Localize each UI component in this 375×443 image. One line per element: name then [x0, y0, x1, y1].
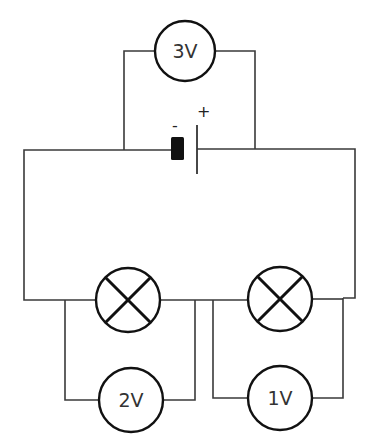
- voltmeter-top-label: 3V: [172, 40, 197, 62]
- battery-negative-plate: [171, 137, 184, 160]
- voltmeter-top: 3V: [155, 21, 215, 81]
- voltmeter-right: 1V: [248, 366, 312, 430]
- voltmeter-right-label: 1V: [267, 387, 292, 409]
- circuit-diagram: - + 3V 2V 1V: [0, 0, 375, 443]
- main-loop-wires: [24, 149, 355, 300]
- battery-positive-label: +: [197, 102, 210, 121]
- battery-negative-label: -: [172, 116, 178, 135]
- voltmeter-left-label: 2V: [118, 389, 143, 411]
- battery-symbol: - +: [171, 102, 210, 174]
- lamp-left: [96, 268, 160, 332]
- voltmeter-left: 2V: [99, 368, 163, 432]
- lamp-right: [248, 267, 312, 331]
